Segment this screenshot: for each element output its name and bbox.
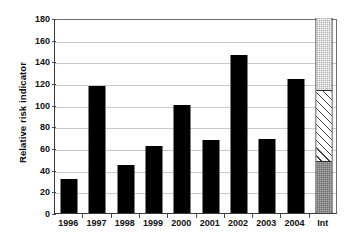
x-axis-tick-label: 2003 (256, 219, 276, 228)
x-axis-tick-mark (224, 214, 225, 218)
y-axis-tick-mark (52, 41, 56, 42)
stacked-bar-middle-segment (316, 90, 331, 162)
y-axis-tick-mark (52, 149, 56, 150)
x-axis-tick-label: 2001 (200, 219, 220, 228)
x-axis-tick-label: 1997 (86, 219, 106, 228)
y-axis-tick-label: 0 (24, 210, 50, 219)
y-axis-tick-mark (52, 171, 56, 172)
bar-1996[interactable] (61, 179, 78, 213)
y-axis-tick-mark (52, 19, 56, 20)
bar-slot (55, 20, 83, 213)
bar-slot (112, 20, 140, 213)
x-axis-tick-label: 1998 (115, 219, 135, 228)
y-axis-tick-label: 80 (24, 123, 50, 132)
y-axis-tick-mark (52, 192, 56, 193)
bar-2002[interactable] (230, 55, 247, 213)
bar-slot (140, 20, 168, 213)
bar-slot (281, 20, 309, 213)
stacked-bar-upper-segment (316, 18, 331, 90)
y-axis-tick-label: 120 (24, 80, 50, 89)
y-axis-tick-mark (52, 214, 56, 215)
x-axis-tick-mark (111, 214, 112, 218)
bar-chart-figure: Relative risk indicator 0204060801001201… (0, 0, 359, 244)
y-axis-tick-labels: 020406080100120140160180 (24, 19, 50, 214)
stacked-bar-lower-segment (316, 161, 331, 213)
y-axis-tick-mark (52, 62, 56, 63)
x-axis-tick-label: 2000 (171, 219, 191, 228)
x-axis-tick-label: 2004 (285, 219, 305, 228)
x-axis-tick-mark (252, 214, 253, 218)
x-axis-tick-mark (196, 214, 197, 218)
bar-1998[interactable] (117, 165, 134, 213)
x-axis-tick-labels: 199619971998199920002001200220032004Int (54, 219, 337, 239)
x-axis-tick-mark (280, 214, 281, 218)
x-axis-tick-label: 1999 (143, 219, 163, 228)
bar-2001[interactable] (202, 140, 219, 213)
y-axis-tick-label: 160 (24, 36, 50, 45)
plot-area (54, 19, 337, 214)
y-axis-tick-label: 60 (24, 145, 50, 154)
bar-slot (225, 20, 253, 213)
bar-slot (168, 20, 196, 213)
x-axis-tick-mark (167, 214, 168, 218)
bar-2003[interactable] (259, 139, 276, 213)
y-axis-tick-label: 100 (24, 101, 50, 110)
bar-slot (310, 20, 338, 213)
bar-2004[interactable] (287, 79, 304, 213)
y-axis-tick-label: 180 (24, 15, 50, 24)
x-axis-tick-mark (309, 214, 310, 218)
y-axis-tick-label: 20 (24, 188, 50, 197)
x-axis-tick-label: 2002 (228, 219, 248, 228)
x-axis-tick-mark (139, 214, 140, 218)
y-axis-tick-mark (52, 84, 56, 85)
x-axis-tick-label: Int (317, 219, 328, 228)
bar-2000[interactable] (174, 105, 191, 213)
x-axis-tick-label: 1996 (58, 219, 78, 228)
y-axis-tick-mark (52, 127, 56, 128)
y-axis-tick-label: 40 (24, 166, 50, 175)
x-axis-tick-mark (82, 214, 83, 218)
bar-slot (197, 20, 225, 213)
bar-1997[interactable] (89, 86, 106, 213)
stacked-bar-int[interactable] (315, 18, 332, 213)
bar-slot (83, 20, 111, 213)
y-axis-tick-label: 140 (24, 58, 50, 67)
bar-slot (253, 20, 281, 213)
bar-series (55, 20, 336, 213)
bar-1999[interactable] (146, 146, 163, 213)
y-axis-tick-mark (52, 106, 56, 107)
